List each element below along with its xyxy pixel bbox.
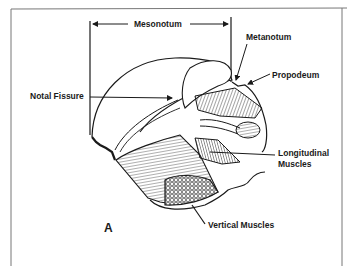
- thorax-illustration: [0, 0, 347, 266]
- metanotum-leader: [236, 44, 247, 80]
- label-metanotum: Metanotum: [246, 32, 291, 42]
- vertical-muscles-cross-section: [165, 176, 218, 206]
- propodeum-leader: [248, 74, 270, 84]
- vertical-muscles-leader: [192, 205, 205, 224]
- label-vertical-muscles: Vertical Muscles: [208, 220, 274, 230]
- label-notal-fissure: Notal Fissure: [30, 91, 84, 101]
- label-longitudinal-line2: Muscles: [278, 159, 312, 169]
- label-mesonotum: Mesonotum: [134, 19, 182, 29]
- spindle-muscle: [236, 122, 260, 138]
- panel-letter: A: [104, 223, 113, 233]
- label-propodeum: Propodeum: [272, 70, 319, 80]
- label-longitudinal-line1: Longitudinal: [278, 148, 329, 158]
- pleural-edge: [92, 137, 115, 160]
- diagram-frame: Mesonotum Metanotum Propodeum Notal Fiss…: [0, 0, 347, 266]
